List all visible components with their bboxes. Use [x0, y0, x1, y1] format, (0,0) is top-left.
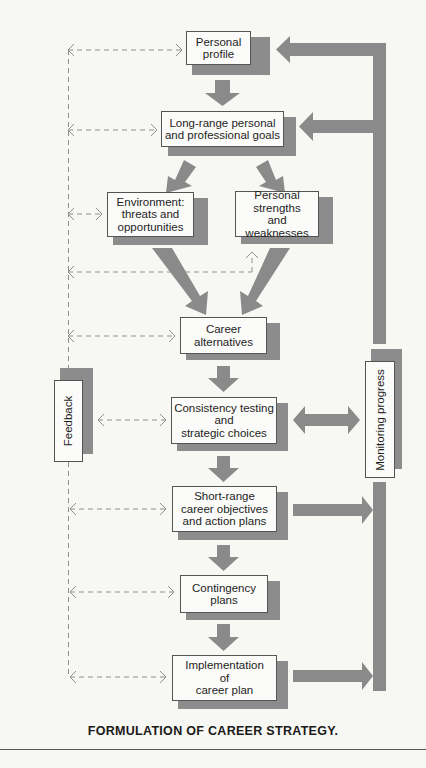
- node-strengths-weaknesses: Personal strengths and weaknesses: [235, 191, 319, 237]
- arrow-goals-to-environment: [166, 160, 196, 193]
- node-implementation: Implementation of career plan: [172, 655, 277, 701]
- arrow-consistency-monitoring-bidirectional: [293, 406, 360, 434]
- arrow-contingency-to-implementation: [208, 624, 239, 651]
- node-label: Feedback: [63, 396, 75, 447]
- arrow-profile-to-goals: [205, 80, 240, 106]
- node-label: Monitoring progress: [374, 369, 386, 471]
- node-label: Contingency plans: [192, 582, 256, 607]
- monitoring-bar-upper: [373, 43, 386, 344]
- node-label: Environment: threats and opportunities: [117, 196, 185, 234]
- node-career-alternatives: Career alternatives: [180, 317, 267, 354]
- node-personal-profile: Personal profile: [186, 31, 251, 65]
- arrow-monitoring-to-goals: [299, 112, 373, 141]
- figure-caption: FORMULATION OF CAREER STRATEGY.: [0, 724, 426, 738]
- arrow-shortrange-to-monitoring: [293, 496, 373, 524]
- node-feedback: Feedback: [54, 380, 83, 462]
- divider-rule: [0, 749, 426, 750]
- arrow-alternatives-to-consistency: [208, 366, 239, 392]
- node-label: Implementation of career plan: [185, 659, 264, 697]
- arrow-consistency-to-shortrange: [208, 456, 239, 482]
- node-label: Personal strengths and weaknesses: [236, 189, 318, 239]
- node-short-range-objectives: Short-range career objectives and action…: [172, 486, 277, 532]
- node-consistency-testing: Consistency testing and strategic choice…: [171, 397, 277, 444]
- node-long-range-goals: Long-range personal and professional goa…: [161, 111, 284, 147]
- node-contingency-plans: Contingency plans: [180, 575, 268, 613]
- monitoring-bar-lower: [373, 482, 386, 691]
- node-label: Long-range personal and professional goa…: [165, 117, 280, 142]
- arrow-implementation-to-monitoring: [293, 662, 373, 690]
- node-label: Personal profile: [196, 36, 241, 61]
- node-label: Consistency testing and strategic choice…: [174, 402, 274, 440]
- arrow-shortrange-to-contingency: [208, 545, 239, 571]
- arrow-environment-to-alternatives: [152, 248, 208, 315]
- node-monitoring-progress: Monitoring progress: [365, 361, 395, 478]
- node-environment: Environment: threats and opportunities: [107, 192, 194, 237]
- arrow-strengths-to-alternatives: [240, 248, 290, 315]
- arrow-monitoring-to-profile: [276, 36, 386, 63]
- node-label: Career alternatives: [194, 323, 253, 348]
- node-label: Short-range career objectives and action…: [181, 490, 268, 528]
